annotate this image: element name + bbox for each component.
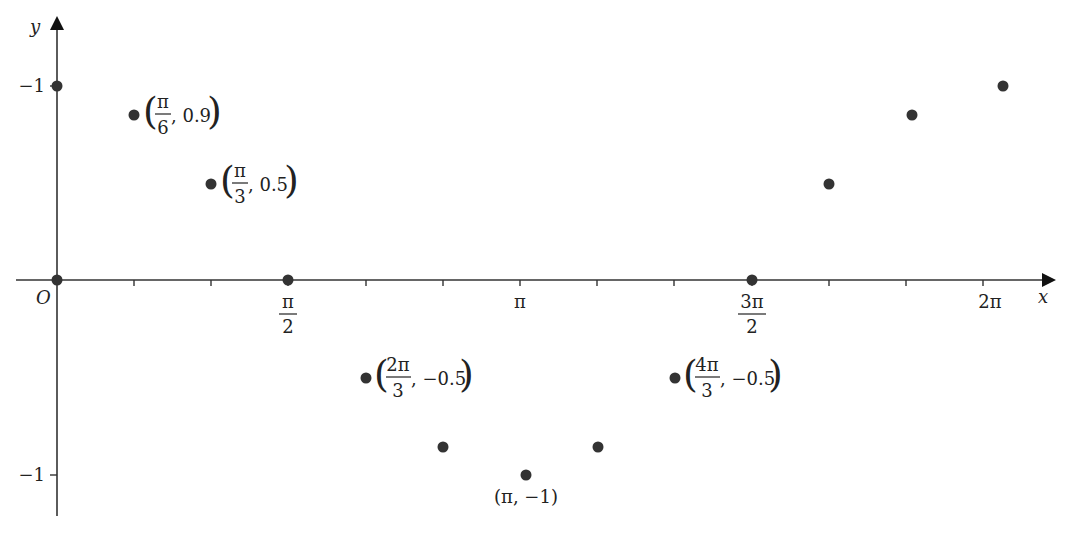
annotation-pi: (π, −1) (494, 486, 558, 507)
x-tick-label-pi: π (514, 291, 526, 312)
svg-text:3: 3 (701, 380, 712, 401)
annotation-2pi-over-3: ( 2π 3 , −0.5 ) (374, 352, 474, 401)
svg-text:π: π (157, 91, 169, 112)
svg-text:3π: 3π (740, 291, 763, 312)
x-ticks (134, 280, 983, 286)
svg-text:2: 2 (746, 316, 757, 337)
y-axis-label: y (29, 16, 41, 37)
data-point (998, 81, 1009, 92)
svg-text:π: π (282, 291, 294, 312)
annotation-4pi-over-3: ( 4π 3 , −0.5 ) (683, 352, 783, 401)
x-axis-arrow-icon (1042, 273, 1056, 287)
svg-text:4π: 4π (695, 354, 718, 375)
svg-text:): ) (207, 89, 222, 133)
svg-text:6: 6 (157, 117, 168, 138)
svg-text:): ) (768, 352, 783, 396)
svg-text:, 0.9: , 0.9 (171, 105, 211, 126)
data-point (206, 179, 217, 190)
annotation-pi-over-3: ( π 3 , 0.5 ) (220, 158, 299, 207)
data-point (521, 470, 532, 481)
data-point (593, 442, 604, 453)
data-point (747, 275, 758, 286)
svg-text:(: ( (143, 89, 158, 133)
svg-text:, −0.5: , −0.5 (411, 368, 466, 389)
x-tick-label-2pi: 2π (978, 291, 1001, 312)
annotation-pi-over-6: ( π 6 , 0.9 ) (143, 89, 222, 138)
cosine-scatter-chart: x y O π 2 π 3π 2 2π (0, 0, 1068, 534)
data-point-origin (52, 275, 63, 286)
svg-text:2: 2 (282, 316, 293, 337)
axes: x y O (16, 16, 1056, 516)
origin-label: O (36, 287, 51, 308)
svg-text:): ) (284, 158, 299, 202)
data-point (361, 373, 372, 384)
data-point (52, 81, 63, 92)
svg-text:, 0.5: , 0.5 (248, 174, 288, 195)
data-point (670, 373, 681, 384)
x-tick-label-pi-over-2: π 2 (279, 291, 297, 337)
data-point (283, 275, 294, 286)
x-tick-label-3pi-over-2: 3π 2 (738, 291, 766, 337)
x-axis-label: x (1038, 286, 1048, 307)
svg-text:, −0.5: , −0.5 (720, 368, 775, 389)
svg-text:2π: 2π (386, 354, 409, 375)
y-tick-label-top: −1 (18, 75, 45, 96)
data-point (438, 442, 449, 453)
svg-text:π: π (234, 160, 246, 181)
svg-text:3: 3 (392, 380, 403, 401)
y-tick-label-bottom: −1 (18, 464, 45, 485)
svg-text:): ) (459, 352, 474, 396)
svg-text:3: 3 (234, 186, 245, 207)
data-point (129, 110, 140, 121)
data-point (824, 179, 835, 190)
y-axis-arrow-icon (50, 16, 64, 30)
data-point (907, 110, 918, 121)
svg-text:(: ( (220, 158, 235, 202)
x-tick-labels: π 2 π 3π 2 2π (279, 291, 1002, 337)
